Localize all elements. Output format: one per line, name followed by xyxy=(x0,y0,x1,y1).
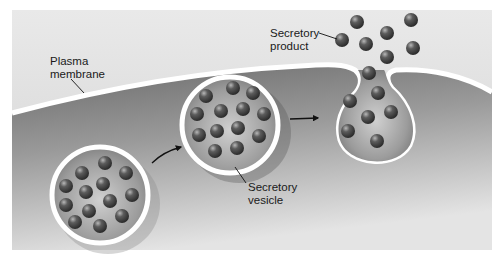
label-secretory-vesicle: Secretory vesicle xyxy=(248,181,297,207)
label-secretory-product: Secretory product xyxy=(270,27,319,53)
label-plasma-membrane: Plasma membrane xyxy=(50,55,105,81)
exocytosis-diagram xyxy=(0,0,502,266)
